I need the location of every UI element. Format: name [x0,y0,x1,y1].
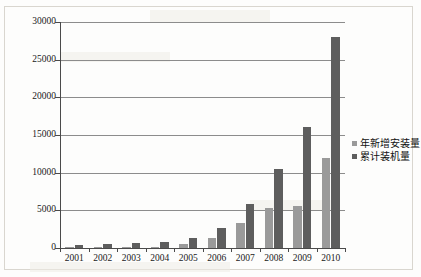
bar-2007-series-0 [236,223,245,248]
y-axis-tick-mark [55,210,60,211]
bar-2004-series-1 [160,242,169,248]
legend-item-cumulative: 累计装机量 [352,150,420,163]
x-axis-tick-mark [60,248,61,252]
y-axis-tick-label: 5000 [37,205,56,214]
y-axis-tick-label: 20000 [32,92,56,101]
bar-2009-series-0 [293,206,302,248]
legend-swatch-icon [352,141,357,146]
scan-artifact [150,10,270,22]
bar-2006-series-0 [208,238,217,248]
y-axis-tick-mark [55,97,60,98]
y-axis-tick-mark [55,22,60,23]
y-axis-tick-label: 25000 [32,55,56,64]
chart-legend: 年新增安装量 累计装机量 [352,137,420,163]
y-axis-tick-mark [55,60,60,61]
legend-swatch-icon [352,154,357,159]
y-axis-tick-label: 15000 [32,130,56,139]
x-axis-tick-mark [345,248,346,252]
bar-2001-series-1 [75,245,84,248]
bar-2009-series-1 [303,127,312,248]
x-axis-tick-label: 2010 [311,253,351,264]
bars-layer [60,22,345,248]
bar-2002-series-1 [103,244,112,248]
bar-2004-series-0 [151,247,160,249]
bar-chart-figure: 300002500020000150001000050000 200120022… [0,0,421,277]
x-axis-tick-mark [260,248,261,252]
bar-2001-series-0 [65,247,74,248]
bar-2005-series-1 [189,238,198,248]
x-axis-tick-mark [317,248,318,252]
x-axis-tick-mark [89,248,90,252]
legend-label: 累计装机量 [360,150,410,163]
y-axis-tick-labels: 300002500020000150001000050000 [0,0,56,277]
x-axis-tick-mark [146,248,147,252]
y-axis-tick-label: 10000 [32,168,56,177]
y-axis-tick-mark [55,173,60,174]
x-axis-tick-mark [174,248,175,252]
legend-item-new-installation: 年新增安装量 [352,137,420,150]
bar-2008-series-1 [274,169,283,248]
bar-2008-series-0 [265,208,274,248]
x-axis-tick-mark [231,248,232,252]
bar-2005-series-0 [179,244,188,248]
x-axis-tick-mark [288,248,289,252]
bar-2006-series-1 [217,228,226,248]
x-axis-tick-mark [117,248,118,252]
legend-label: 年新增安装量 [360,137,420,150]
y-axis-tick-mark [55,135,60,136]
y-axis-tick-label: 30000 [32,17,56,26]
bar-2002-series-0 [94,247,103,248]
bar-2003-series-0 [122,247,131,248]
bar-2010-series-0 [322,158,331,248]
bar-2010-series-1 [331,37,340,248]
bar-2007-series-1 [246,204,255,248]
bar-2003-series-1 [132,243,141,248]
x-axis-tick-mark [203,248,204,252]
